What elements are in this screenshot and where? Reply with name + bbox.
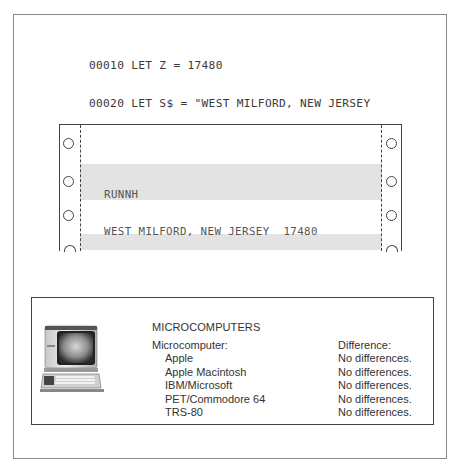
microcomputer-name: Apple (152, 352, 265, 365)
code-line: 00010 LET Z = 17480 (89, 60, 370, 73)
tractor-hole-icon (386, 176, 397, 187)
difference-value: No differences. (338, 379, 412, 392)
difference-value: No differences. (338, 366, 412, 379)
perforation-line-right (381, 125, 382, 251)
code-line: 00020 LET S$ = "WEST MILFORD, NEW JERSEY (89, 98, 370, 111)
microcomputer-header: Microcomputer: (152, 339, 265, 352)
output-line: WEST MILFORD, NEW JERSEY 17480 (104, 226, 318, 238)
tractor-hole-icon (63, 210, 74, 221)
tractor-hole-icon (386, 210, 397, 221)
difference-column: Difference: No differences. No differenc… (338, 339, 412, 419)
difference-header: Difference: (338, 339, 412, 352)
output-line: RUNNH (104, 189, 318, 201)
tractor-notch-icon (64, 245, 76, 252)
printer-output: RUNNH WEST MILFORD, NEW JERSEY 17480 (104, 164, 318, 263)
microcomputer-name: PET/Commodore 64 (152, 393, 265, 406)
tractor-notch-icon (386, 245, 398, 252)
difference-value: No differences. (338, 352, 412, 365)
difference-value: No differences. (338, 393, 412, 406)
microcomputer-name: TRS-80 (152, 406, 265, 419)
tractor-hole-icon (63, 176, 74, 187)
microcomputer-name: IBM/Microsoft (152, 379, 265, 392)
microcomputer-icon (40, 318, 104, 398)
tractor-hole-icon (63, 138, 74, 149)
difference-value: No differences. (338, 406, 412, 419)
microcomputer-column: Microcomputer: Apple Apple Macintosh IBM… (152, 339, 265, 419)
tractor-hole-icon (386, 138, 397, 149)
microcomputer-name: Apple Macintosh (152, 366, 265, 379)
compatibility-title: MICROCOMPUTERS (152, 321, 260, 333)
perforation-line-left (80, 125, 81, 251)
